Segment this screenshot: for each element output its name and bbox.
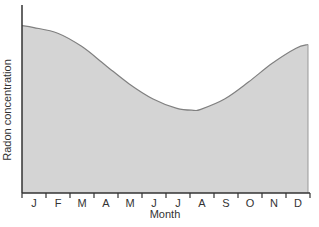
x-tick-label: S	[222, 197, 229, 209]
x-tick-label: M	[125, 197, 134, 209]
x-tick-label: A	[102, 197, 110, 209]
x-tick-label: O	[246, 197, 255, 209]
x-tick-label: N	[270, 197, 278, 209]
x-tick-label: J	[31, 197, 37, 209]
x-axis-title: Month	[150, 208, 181, 220]
area-fill	[22, 26, 308, 193]
x-tick-label: A	[198, 197, 206, 209]
radon-area-chart: JFMAMJJASOND Month Radon concentration	[0, 0, 319, 227]
x-tick-label: F	[55, 197, 62, 209]
y-axis-title: Radon concentration	[1, 59, 13, 161]
x-tick-label: M	[77, 197, 86, 209]
x-tick-label: D	[294, 197, 302, 209]
area-layer	[22, 26, 308, 193]
